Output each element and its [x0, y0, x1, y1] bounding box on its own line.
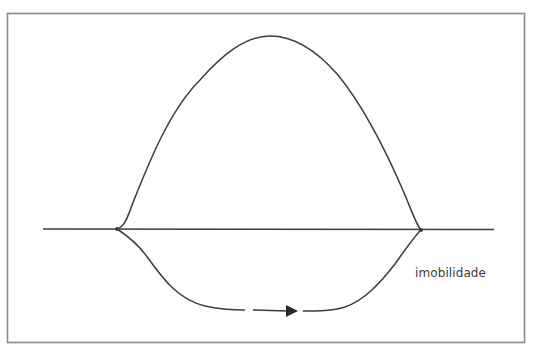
upper-curve [117, 36, 421, 230]
imobilidade-label: imobilidade [415, 266, 486, 280]
arrow-right-icon [286, 305, 298, 317]
lower-curve-left [117, 229, 245, 310]
left-node [115, 227, 119, 231]
baseline [43, 229, 494, 230]
right-node [419, 228, 423, 232]
lower-curve-dash [253, 310, 288, 311]
lower-curve-right [303, 230, 421, 311]
diagram-frame [8, 14, 525, 343]
diagram-canvas [0, 0, 534, 351]
diagram-stage: imobilidade [0, 0, 534, 351]
